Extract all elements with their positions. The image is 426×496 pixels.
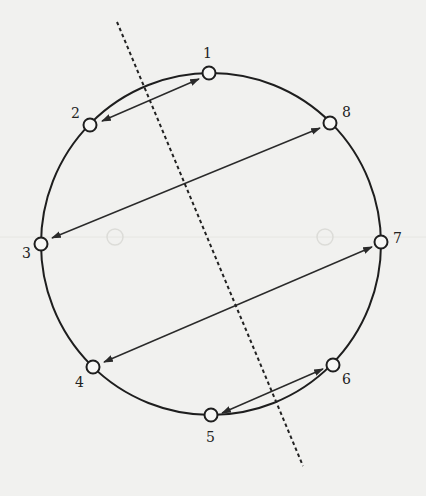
labels-layer: 12345678 [22, 45, 402, 445]
node-5 [205, 409, 218, 422]
node-1 [203, 67, 216, 80]
node-3 [35, 238, 48, 251]
double-arrow-8-3 [52, 128, 320, 238]
paper-bleed-through [0, 229, 426, 245]
node-label-7: 7 [393, 230, 402, 246]
double-arrow-7-4 [104, 247, 372, 362]
node-label-6: 6 [342, 371, 351, 387]
node-label-1: 1 [203, 45, 212, 61]
node-2 [84, 119, 97, 132]
node-8 [324, 117, 337, 130]
node-label-3: 3 [22, 245, 31, 261]
node-label-8: 8 [342, 104, 351, 120]
arrows-layer [52, 79, 372, 413]
node-label-5: 5 [206, 429, 215, 445]
circle-reflection-diagram: 12345678 [0, 0, 426, 496]
node-7 [375, 236, 388, 249]
node-6 [327, 359, 340, 372]
node-label-2: 2 [71, 105, 80, 121]
node-label-4: 4 [75, 374, 84, 390]
double-arrow-6-5 [222, 369, 323, 413]
symmetry-axis [117, 22, 303, 466]
node-4 [87, 361, 100, 374]
diagram-canvas: 12345678 [0, 0, 426, 496]
